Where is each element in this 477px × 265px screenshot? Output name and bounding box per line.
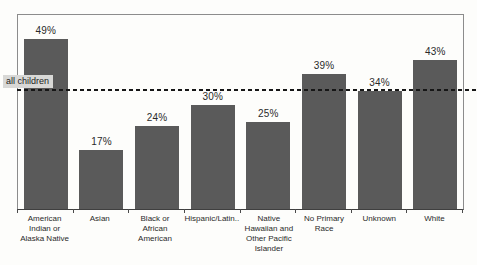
- axis-tick: [406, 209, 407, 213]
- bar: [302, 74, 346, 209]
- bar-slot: 39%: [296, 15, 352, 209]
- axis-tick: [73, 209, 74, 213]
- x-axis-labels: American Indian or Alaska NativeAsianBla…: [17, 214, 462, 254]
- axis-tick: [351, 209, 352, 213]
- axis-tick: [17, 209, 18, 213]
- axis-tick: [240, 209, 241, 213]
- bar-slot: 34%: [352, 15, 408, 209]
- bar: [246, 122, 290, 209]
- category-label: Asian: [72, 214, 127, 254]
- chart-canvas: 49%17%24%30%25%39%34%43% all children Am…: [0, 0, 477, 265]
- category-label: Hispanic/Latin..: [183, 214, 242, 254]
- bar: [191, 105, 235, 209]
- bar: [135, 126, 179, 209]
- bar-value-label: 25%: [258, 108, 279, 119]
- bar-slot: 25%: [241, 15, 297, 209]
- bars-container: 49%17%24%30%25%39%34%43%: [18, 15, 463, 209]
- bar-slot: 17%: [74, 15, 130, 209]
- bar: [413, 60, 457, 209]
- bar-value-label: 17%: [91, 136, 112, 147]
- bar: [24, 39, 68, 209]
- bar-value-label: 24%: [147, 112, 168, 123]
- bar-slot: 49%: [18, 15, 74, 209]
- bar-value-label: 43%: [425, 46, 446, 57]
- bar: [358, 91, 402, 209]
- reference-line-label: all children: [3, 75, 53, 88]
- bar-value-label: 49%: [36, 25, 57, 36]
- axis-tick: [295, 209, 296, 213]
- bar-value-label: 34%: [369, 77, 390, 88]
- bar-value-label: 30%: [202, 91, 223, 102]
- axis-tick: [462, 209, 463, 213]
- category-label: White: [407, 214, 462, 254]
- bar: [79, 150, 123, 209]
- category-label: American Indian or Alaska Native: [17, 214, 72, 254]
- bar-slot: 43%: [407, 15, 463, 209]
- bar-value-label: 39%: [314, 60, 335, 71]
- category-label: Black or African American: [127, 214, 182, 254]
- category-label: No Primary Race: [296, 214, 351, 254]
- bar-slot: 30%: [185, 15, 241, 209]
- reference-line: [17, 89, 477, 91]
- axis-tick: [184, 209, 185, 213]
- plot-area: 49%17%24%30%25%39%34%43%: [17, 14, 464, 210]
- category-label: Native Hawaiian and Other Pacific Island…: [241, 214, 296, 254]
- category-label: Unknown: [352, 214, 407, 254]
- axis-tick: [128, 209, 129, 213]
- bar-slot: 24%: [129, 15, 185, 209]
